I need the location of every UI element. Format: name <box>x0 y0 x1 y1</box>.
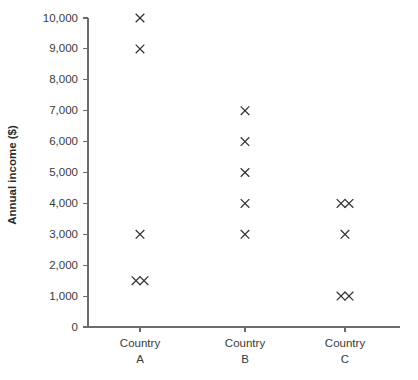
data-point-marker <box>241 199 250 208</box>
x-tick-label: A <box>136 353 144 365</box>
x-tick-label: Country <box>120 337 161 349</box>
y-tick-label: 6,000 <box>49 135 78 147</box>
data-point-marker <box>136 45 145 54</box>
y-axis-group: 01,0002,0003,0004,0005,0006,0007,0008,00… <box>43 12 88 333</box>
x-tick-label: Country <box>325 337 366 349</box>
y-tick-label: 1,000 <box>49 290 78 302</box>
data-point-marker <box>337 292 346 301</box>
data-point-marker <box>132 276 141 285</box>
y-tick-label: 8,000 <box>49 73 78 85</box>
data-point-marker <box>337 199 346 208</box>
x-tick-label: Country <box>225 337 266 349</box>
data-point-marker <box>140 276 149 285</box>
data-point-marker <box>345 292 354 301</box>
chart-canvas: 01,0002,0003,0004,0005,0006,0007,0008,00… <box>0 0 418 380</box>
x-axis-group: CountryACountryBCountryC <box>88 327 400 365</box>
x-tick-label: C <box>341 353 349 365</box>
x-tick-label: B <box>241 353 249 365</box>
y-tick-label: 4,000 <box>49 197 78 209</box>
y-tick-label: 2,000 <box>49 259 78 271</box>
data-point-marker <box>345 199 354 208</box>
data-point-marker <box>136 14 145 23</box>
data-point-marker <box>241 137 250 146</box>
dot-plot-chart: 01,0002,0003,0004,0005,0006,0007,0008,00… <box>0 0 418 380</box>
data-point-markers <box>132 14 354 301</box>
y-tick-label: 5,000 <box>49 166 78 178</box>
data-point-marker <box>241 168 250 177</box>
y-tick-label: 10,000 <box>43 12 78 24</box>
x-axis-ticks: CountryACountryBCountryC <box>120 327 366 365</box>
y-axis-title: Annual income ($) <box>6 125 18 225</box>
data-point-marker <box>241 106 250 115</box>
y-tick-label: 3,000 <box>49 228 78 240</box>
y-axis-ticks: 01,0002,0003,0004,0005,0006,0007,0008,00… <box>43 12 88 333</box>
y-tick-label: 9,000 <box>49 42 78 54</box>
y-tick-label: 0 <box>72 321 78 333</box>
data-point-marker <box>136 230 145 239</box>
data-point-marker <box>241 230 250 239</box>
y-tick-label: 7,000 <box>49 104 78 116</box>
axis-titles: Annual income ($) <box>6 125 18 225</box>
data-point-marker <box>341 230 350 239</box>
